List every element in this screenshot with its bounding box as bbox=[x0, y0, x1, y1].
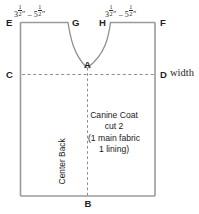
right-dim-inch-b: ″ bbox=[133, 10, 136, 19]
point-label-b: B bbox=[85, 199, 92, 209]
right-dim-dash: – bbox=[119, 10, 123, 19]
left-dim-inch-a: ″ bbox=[22, 10, 25, 19]
left-dim-dash: – bbox=[28, 10, 32, 19]
right-dim-inch-a: ″ bbox=[113, 10, 116, 19]
point-label-a: A bbox=[84, 60, 91, 70]
point-label-d: D bbox=[160, 70, 167, 80]
piece-instructions-block: Canine Coat cut 2 (1 main fabric 1 linin… bbox=[88, 110, 140, 155]
point-label-c: C bbox=[6, 70, 13, 80]
piece-name-line: Canine Coat bbox=[88, 110, 140, 121]
canine-coat-pattern-diagram: 312″ – 512″ 312″ – 512″ E G H F C D A B … bbox=[0, 0, 199, 214]
left-shoulder-dimension-label: 312″ – 512″ bbox=[14, 4, 45, 19]
width-annotation-label: width bbox=[170, 68, 194, 79]
pattern-drawing bbox=[0, 0, 199, 214]
left-dim-inch-b: ″ bbox=[42, 10, 45, 19]
center-back-label: Center Back bbox=[58, 138, 66, 184]
piece-lining-line: 1 lining) bbox=[88, 144, 140, 155]
point-label-h: H bbox=[99, 18, 106, 28]
piece-cut-count-line: cut 2 bbox=[88, 121, 140, 132]
point-label-g: G bbox=[72, 18, 80, 28]
point-label-e: E bbox=[6, 18, 13, 28]
neckline-right-curve bbox=[88, 23, 111, 68]
right-shoulder-dimension-label: 312″ – 512″ bbox=[105, 4, 136, 19]
point-label-f: F bbox=[160, 18, 166, 28]
piece-main-fabric-line: (1 main fabric bbox=[88, 133, 140, 144]
